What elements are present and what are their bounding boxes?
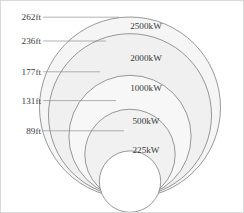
power-label-225kw: 225kW <box>132 145 159 155</box>
nested-circles-chart: 262ft 236ft 177ft 131ft 89ft 2500kW 2000… <box>0 0 244 213</box>
circle-group-225kw <box>99 151 160 212</box>
power-label-2500kw: 2500kW <box>130 21 162 31</box>
power-label-500kw: 500kW <box>132 116 159 126</box>
diameter-label-131ft: 131ft <box>22 96 42 106</box>
diameter-label-177ft: 177ft <box>22 67 42 77</box>
circle-225kw <box>99 151 160 212</box>
power-label-1000kw: 1000kW <box>130 83 162 93</box>
diameter-label-262ft: 262ft <box>22 12 42 22</box>
diameter-label-236ft: 236ft <box>22 36 42 46</box>
diameter-label-89ft: 89ft <box>26 126 41 136</box>
power-label-2000kw: 2000kW <box>130 53 162 63</box>
bubble-diagram-figure: 262ft 236ft 177ft 131ft 89ft 2500kW 2000… <box>0 0 244 213</box>
